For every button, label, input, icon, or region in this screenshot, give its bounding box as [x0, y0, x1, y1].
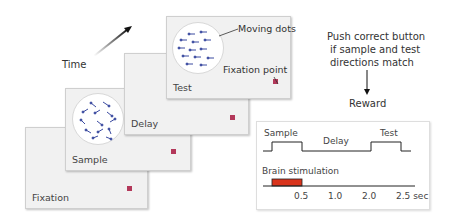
tick-0-5: 0.5 [294, 191, 308, 201]
tick-1-0: 1.0 [328, 191, 342, 201]
tick-2-0: 2.0 [362, 191, 376, 201]
timeline-panel: Sample Delay Test Brain stimulation 0.5 … [256, 121, 430, 210]
timeline-test-label: Test [380, 128, 398, 138]
brain-stimulation-label: Brain stimulation [262, 166, 339, 176]
reward-label: Reward [349, 98, 386, 109]
timeline-sample-label: Sample [264, 128, 298, 138]
timeline-delay-label: Delay [323, 136, 349, 146]
tick-2-5-sec: 2.5 sec [396, 191, 428, 201]
